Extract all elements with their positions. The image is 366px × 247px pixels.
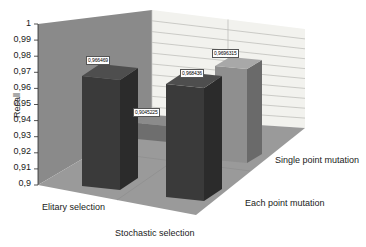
bar-label-stochastic-single-point: 0,9696315 bbox=[212, 49, 239, 58]
recall-3d-bar-chart: Recall 1 0,99 0,98 0,97 0,96 0,95 0,94 0… bbox=[0, 0, 366, 247]
bar-elitary-each-point bbox=[82, 64, 138, 190]
y-tick-1: 1 bbox=[0, 19, 31, 28]
bar-label-elitary-each-point: 0,966469 bbox=[86, 56, 110, 65]
depth-label-each-point-mutation: Each point mutation bbox=[245, 198, 325, 208]
y-tick-0-97: 0,97 bbox=[0, 67, 31, 76]
bar-stochastic-single-point bbox=[215, 57, 262, 163]
depth-label-single-point-mutation: Single point mutation bbox=[275, 155, 359, 165]
y-tick-0-92: 0,92 bbox=[0, 147, 31, 156]
y-tick-0-96: 0,96 bbox=[0, 83, 31, 92]
category-label-stochastic-selection: Stochastic selection bbox=[115, 228, 195, 238]
bar-label-elitary-single-point: 0,9045225 bbox=[133, 108, 160, 117]
bar-label-stochastic-each-point: 0,968436 bbox=[180, 69, 204, 78]
y-tick-0-93: 0,93 bbox=[0, 131, 31, 140]
category-label-elitary-selection: Elitary selection bbox=[42, 202, 105, 212]
y-tick-0-91: 0,91 bbox=[0, 163, 31, 172]
y-tick-0-94: 0,94 bbox=[0, 115, 31, 124]
y-tick-0-95: 0,95 bbox=[0, 99, 31, 108]
y-tick-0-9: 0,9 bbox=[0, 179, 31, 188]
y-axis-ticks bbox=[34, 24, 38, 185]
y-tick-0-99: 0,99 bbox=[0, 35, 31, 44]
y-tick-0-98: 0,98 bbox=[0, 51, 31, 60]
bar-stochastic-each-point bbox=[166, 72, 222, 201]
